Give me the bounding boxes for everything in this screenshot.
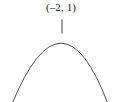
parabola-figure: (–2, 1) <box>0 0 122 102</box>
vertex-coordinate-label: (–2, 1) <box>0 1 122 14</box>
parabola-graphic <box>0 0 122 102</box>
parabola-curve <box>12 43 108 102</box>
